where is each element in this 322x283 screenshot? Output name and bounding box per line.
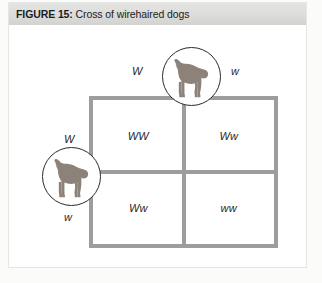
parent-dog-top — [162, 47, 221, 106]
punnett-cell-bottom-right: ww — [184, 172, 275, 244]
punnett-grid: WW Ww Ww ww — [89, 96, 278, 248]
figure-caption: Cross of wirehaired dogs — [76, 8, 190, 20]
figure-container: FIGURE 15: Cross of wirehaired dogs W w … — [8, 2, 307, 268]
allele-label-top-left: W — [132, 65, 142, 77]
allele-label-top-right: w — [231, 65, 239, 77]
figure-title: FIGURE 15: Cross of wirehaired dogs — [16, 7, 189, 21]
punnett-cell-top-right: Ww — [184, 100, 275, 172]
punnett-cell-bottom-left: Ww — [93, 172, 184, 244]
punnett-cell-top-left: WW — [93, 100, 184, 172]
allele-label-left-top: W — [64, 133, 74, 145]
punnett-square-diagram: W w W w WW Ww Ww ww — [9, 25, 306, 267]
parent-dog-left — [42, 147, 101, 206]
allele-label-left-bottom: w — [64, 211, 72, 223]
figure-number-label: FIGURE 15: — [16, 8, 73, 20]
